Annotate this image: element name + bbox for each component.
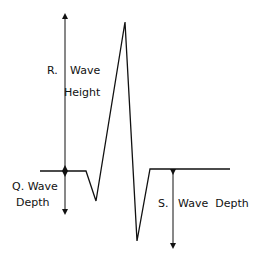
r-height-label: Height: [64, 86, 100, 99]
q-depth-label: Depth: [16, 196, 50, 209]
r-wave-label: Wave: [70, 64, 100, 77]
q-wave-label: Q. Wave: [12, 180, 58, 193]
qrs-diagram: [0, 0, 254, 260]
s-prefix-label: S.: [158, 197, 168, 210]
s-wave-depth-label: Wave Depth: [178, 197, 249, 210]
r-prefix-label: R.: [47, 64, 58, 77]
